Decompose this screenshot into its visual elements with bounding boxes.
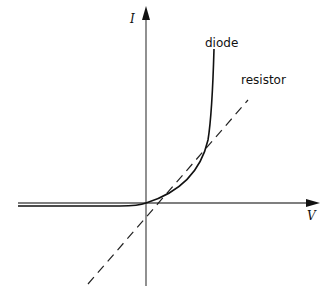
resistor-line: [88, 100, 248, 284]
x-axis-label: V: [307, 210, 316, 222]
diode-label: diode: [205, 37, 238, 49]
resistor-label: resistor: [241, 74, 286, 86]
y-axis-arrow-icon: [142, 6, 150, 20]
y-axis-label: I: [130, 13, 135, 25]
x-axis-arrow-icon: [306, 199, 320, 207]
iv-characteristic-diagram: [0, 0, 332, 296]
diode-curve: [18, 49, 214, 206]
